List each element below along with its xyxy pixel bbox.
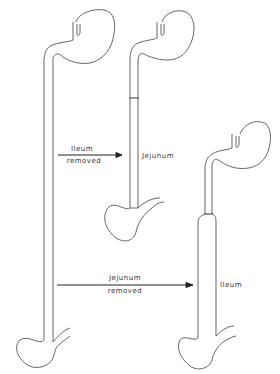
ileum-removed-label-2: removed [62,157,106,166]
jejunum-removed-label: Jejunum [100,274,150,283]
ileum-text: Ileum [220,281,242,289]
jejunum-text: Jejunum [142,152,174,160]
ileum-label: Ileum [220,281,242,290]
arrow1-line2: removed [62,157,106,166]
stomach-2 [138,11,194,62]
ileum-removed-label: Ileum [62,145,102,154]
stomach-1 [53,10,115,64]
ileum-removed-bowel [105,11,194,241]
arrow1-line1: Ileum [62,145,102,154]
colon-1 [17,336,70,367]
stomach-3 [212,122,271,169]
jejunum-removed-label-2: removed [100,287,150,296]
arrow2-line2: removed [100,287,150,296]
bowel-resection-diagram [0,0,280,374]
arrow2-line1: Jejunum [100,274,150,283]
jejunum-removed-bowel [178,122,270,369]
jejunum-label: Jejunum [142,152,174,161]
colon-3 [178,336,236,369]
intact-bowel [17,10,115,368]
